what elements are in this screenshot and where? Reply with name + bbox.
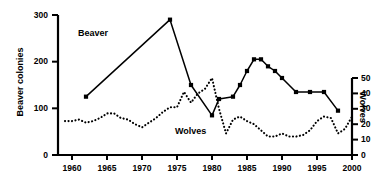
- data-point-beaver: [210, 113, 214, 117]
- y-tick-right-50: 50: [361, 73, 381, 83]
- data-point-beaver: [266, 64, 270, 68]
- data-point-beaver: [322, 90, 326, 94]
- data-point-beaver: [294, 90, 298, 94]
- data-point-beaver: [231, 95, 235, 99]
- series-line-beaver: [86, 20, 338, 116]
- data-point-beaver: [336, 109, 340, 113]
- x-tick-1960: 1960: [56, 163, 88, 173]
- y-tick-right-10: 10: [361, 134, 381, 144]
- x-tick-1990: 1990: [266, 163, 298, 173]
- data-series-layer: [65, 18, 352, 137]
- x-tick-1970: 1970: [126, 163, 158, 173]
- series-line-wolves: [65, 78, 352, 137]
- y-tick-right-30: 30: [361, 103, 381, 113]
- chart-figure: Beaver colonies Wolves Beaver Wolves 010…: [0, 0, 391, 186]
- data-point-beaver: [238, 83, 242, 87]
- series-annotation-beaver: Beaver: [78, 28, 108, 38]
- data-point-beaver: [259, 57, 263, 61]
- y-tick-left-300: 300: [14, 10, 48, 20]
- data-point-beaver: [252, 57, 256, 61]
- series-annotation-wolves: Wolves: [175, 126, 206, 136]
- data-point-beaver: [280, 76, 284, 80]
- y-tick-left-0: 0: [14, 150, 48, 160]
- y-axis-label-left: Beaver colonies: [15, 36, 25, 128]
- x-tick-2000: 2000: [336, 163, 368, 173]
- y-tick-left-200: 200: [14, 56, 48, 66]
- y-tick-right-0: 0: [361, 150, 381, 160]
- data-point-beaver: [168, 18, 172, 22]
- data-point-beaver: [245, 69, 249, 73]
- x-tick-1995: 1995: [301, 163, 333, 173]
- data-point-beaver: [84, 95, 88, 99]
- x-tick-1975: 1975: [161, 163, 193, 173]
- data-point-beaver: [308, 90, 312, 94]
- x-tick-1985: 1985: [231, 163, 263, 173]
- y-tick-right-40: 40: [361, 88, 381, 98]
- data-point-beaver: [189, 83, 193, 87]
- x-tick-1965: 1965: [91, 163, 123, 173]
- data-point-beaver: [273, 69, 277, 73]
- y-tick-right-20: 20: [361, 119, 381, 129]
- y-tick-left-100: 100: [14, 103, 48, 113]
- chart-plot-area: [0, 0, 391, 186]
- x-tick-1980: 1980: [196, 163, 228, 173]
